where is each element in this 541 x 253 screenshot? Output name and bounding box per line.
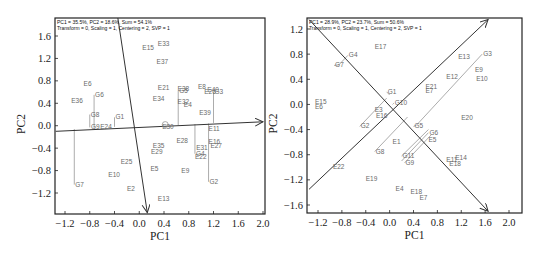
entry-label: E24 — [100, 123, 112, 130]
entry-label: E21 — [158, 84, 170, 91]
entry-label: E9 — [475, 66, 483, 73]
x-tick-label: 1.6 — [479, 217, 492, 228]
tester-label: G5 — [415, 122, 424, 129]
tester-label: G1 — [116, 113, 125, 120]
y-tick-label: −0.8 — [284, 149, 303, 160]
entry-label: E18 — [449, 160, 461, 167]
entry-label: E2 — [127, 185, 135, 192]
entry-label: E22 — [195, 153, 207, 160]
y-tick-label: 0.0 — [290, 99, 303, 110]
x-tick-label: 0.8 — [182, 218, 195, 229]
x-tick-label: −0.8 — [80, 218, 99, 229]
entry-label: E39 — [199, 109, 211, 116]
x-tick-label: 0.0 — [133, 218, 146, 229]
y-tick-label: 0.8 — [38, 75, 51, 86]
entry-label: G9 — [91, 123, 100, 130]
y-tick-label: 1.2 — [290, 24, 303, 35]
tester-label: G2 — [210, 178, 219, 185]
biplot-left: PC1 = 35.5%, PC2 = 18.6%, Sum = 54.1%Tra… — [0, 0, 541, 253]
y-tick-label: −0.4 — [284, 124, 304, 135]
entry-label: E10 — [476, 75, 488, 82]
y-tick-label: −1.2 — [32, 188, 51, 199]
entry-label: E28 — [176, 137, 188, 144]
plot-frame — [55, 18, 265, 214]
y-tick-label: −0.8 — [32, 165, 51, 176]
tester-label: G10 — [395, 99, 408, 106]
entry-label: E33 — [158, 40, 170, 47]
chart-subtitle: Transform = 0, Scaling = 1, Centering = … — [57, 25, 170, 31]
entry-label: E15 — [142, 44, 154, 51]
x-tick-label: 0.0 — [383, 217, 396, 228]
x-tick-label: 2.0 — [256, 218, 269, 229]
entry-label: E27 — [210, 142, 222, 149]
x-tick-label: 1.6 — [232, 218, 245, 229]
tester-label: G3 — [483, 50, 492, 57]
tester-label: G11 — [403, 152, 415, 159]
tester-label: G4 — [349, 51, 358, 58]
x-tick-label: −0.4 — [105, 218, 125, 229]
x-tick-label: 0.4 — [407, 217, 421, 228]
entry-label: E16 — [376, 112, 388, 119]
tester-label: G8 — [376, 148, 385, 155]
tester-label: G7 — [335, 61, 344, 68]
y-tick-label: −0.4 — [32, 143, 52, 154]
entry-label: E4 — [396, 185, 404, 192]
entry-label: E38 — [178, 85, 190, 92]
entry-label: E7 — [419, 194, 427, 201]
tester-label: G9 — [406, 159, 415, 166]
x-tick-label: 2.0 — [502, 217, 515, 228]
entry-label: E26 — [204, 88, 216, 95]
entry-label: E12 — [446, 73, 458, 80]
entry-label: E20 — [461, 114, 473, 121]
chart-right: PC1 = 28.9%, PC2 = 23.7%, Sum = 50.6%Tra… — [267, 18, 522, 241]
x-tick-label: 1.2 — [455, 217, 468, 228]
entry-label: E10 — [108, 171, 120, 178]
entry-label: E11 — [209, 125, 220, 132]
tester-label: G1 — [388, 88, 397, 95]
entry-label: E25 — [121, 158, 133, 165]
x-tick-label: −0.8 — [332, 217, 351, 228]
entry-label: E6 — [315, 103, 323, 110]
entry-label: E22 — [333, 163, 345, 170]
y-tick-label: 1.6 — [38, 31, 51, 42]
tester-label: G6 — [95, 91, 104, 98]
entry-label: E34 — [153, 95, 165, 102]
x-tick-label: −1.2 — [55, 218, 74, 229]
entry-label: E36 — [71, 97, 83, 104]
tester-label: G6 — [429, 129, 438, 136]
y-axis-label: PC2 — [15, 114, 27, 134]
x-axis-label: PC1 — [405, 229, 425, 241]
tester-label: G7 — [75, 181, 84, 188]
chart-subtitle: Transform = 0, Scaling = 1, Centering = … — [309, 25, 422, 31]
entry-label: E5 — [428, 136, 436, 143]
entry-label: E30 — [162, 123, 174, 130]
y-tick-label: 0.4 — [290, 74, 304, 85]
y-tick-label: −1.2 — [284, 174, 303, 185]
entry-label: E7 — [425, 87, 433, 94]
x-tick-label: 1.2 — [207, 218, 220, 229]
entry-label: E1 — [393, 138, 401, 145]
entry-label: E31 — [196, 144, 208, 151]
x-tick-label: 0.8 — [431, 217, 444, 228]
y-tick-label: −1.6 — [284, 200, 303, 211]
y-tick-label: 0.0 — [38, 120, 51, 131]
y-tick-label: 0.8 — [290, 49, 303, 60]
entry-label: E5 — [150, 165, 158, 172]
plot-frame — [307, 18, 522, 213]
entry-label: E13 — [458, 53, 470, 60]
entry-label: E13 — [158, 195, 170, 202]
entry-label: E37 — [157, 58, 169, 65]
entry-label: E29 — [151, 148, 163, 155]
entry-label: E19 — [366, 175, 378, 182]
entry-label: E6 — [84, 80, 92, 87]
tester-label: G2 — [361, 122, 370, 129]
x-axis-label: PC1 — [150, 230, 170, 242]
tester-label: G8 — [91, 111, 100, 118]
x-tick-label: 0.4 — [157, 218, 171, 229]
chart-left: PC1 = 35.5%, PC2 = 18.6%, Sum = 54.1%Tra… — [15, 16, 270, 242]
x-tick-label: −0.4 — [356, 217, 376, 228]
y-axis-label: PC2 — [267, 113, 279, 133]
y-tick-label: 0.4 — [38, 98, 52, 109]
entry-label: E9 — [181, 167, 189, 174]
y-tick-label: 1.2 — [38, 53, 51, 64]
